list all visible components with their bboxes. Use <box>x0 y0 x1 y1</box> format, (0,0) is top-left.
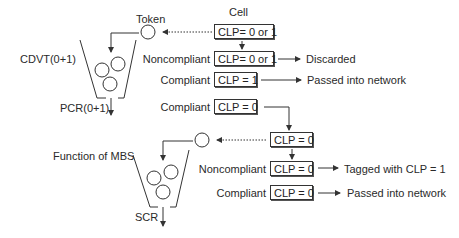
stage2-status-compliant: Compliant <box>186 187 266 200</box>
stage2-status-noncompliant: Noncompliant <box>186 163 266 176</box>
stage2-box-noncompliant: CLP = 0 <box>270 161 313 176</box>
bucket-1 <box>80 40 106 98</box>
stage2-box-compliant: CLP = 0 <box>270 185 313 200</box>
stage1-box-clp1: CLP = 1 <box>214 72 257 87</box>
stage1-box-clp0: CLP = 0 <box>214 99 257 114</box>
token-label: Token <box>136 13 165 26</box>
cell-heading: Cell <box>229 6 248 19</box>
stage1-status-noncompliant: Noncompliant <box>130 53 210 66</box>
stage2-result-tagged: Tagged with CLP = 1 <box>344 163 446 176</box>
token-to-bucket-1 <box>111 33 139 52</box>
gcra-diagram: Cell Token CDVT(0+1) PCR(0+1) Function o… <box>0 0 459 238</box>
stage1-result-discarded: Discarded <box>306 53 356 66</box>
bucket-2 <box>133 155 158 207</box>
cell-input-box-1: CLP= 0 or 1 <box>214 24 274 39</box>
stage1-result-passed: Passed into network <box>307 74 406 87</box>
bucket-2-output-label: SCR <box>135 211 158 224</box>
token-circle-1 <box>141 25 155 39</box>
bucket-2-label: Function of MBS <box>53 150 134 163</box>
token-circle-2 <box>195 133 209 147</box>
stage1-status-compliant-clp0: Compliant <box>130 101 210 114</box>
bucket-1-label: CDVT(0+1) <box>20 53 76 66</box>
stage1-status-compliant-clp1: Compliant <box>130 74 210 87</box>
stage1-box-noncompliant: CLP= 0 or 1 <box>214 51 274 66</box>
stage2-result-passed: Passed into network <box>347 187 446 200</box>
cell-input-box-2: CLP = 0 <box>270 132 313 147</box>
bucket-1-output-label: PCR(0+1) <box>60 102 109 115</box>
